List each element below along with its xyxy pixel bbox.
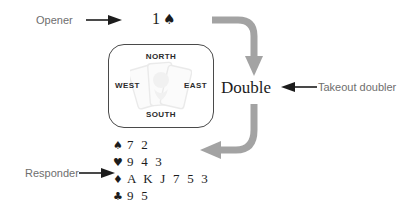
flow-arrow-opener-to-double-head: [245, 56, 263, 76]
compass-west-label: WEST: [115, 82, 140, 90]
hand-row: ♥ 9 4 3: [113, 155, 243, 172]
opening-bid: 1♠: [152, 11, 176, 27]
spade-suit-icon: ♠: [113, 140, 127, 151]
opening-bid-level: 1: [152, 10, 160, 27]
responder-hand: ♠ 7 2 ♥ 9 4 3 ♦ A K J 7 5 3 ♣ 9 5: [113, 138, 243, 206]
compass-north-label: NORTH: [109, 53, 213, 61]
club-suit-icon: ♣: [113, 191, 127, 202]
hand-row: ♦ A K J 7 5 3: [113, 172, 243, 189]
flow-arrow-opener-to-double-shaft: [212, 20, 254, 58]
hand-cards-spades: 7 2: [127, 138, 150, 151]
hand-cards-hearts: 9 4 3: [127, 155, 164, 168]
takeout-doubler-callout-arrow: [279, 81, 317, 93]
double-bid: Double: [221, 79, 271, 96]
opener-callout-arrow: [86, 14, 124, 26]
compass-south-label: SOUTH: [109, 111, 213, 119]
takeout-double-diagram: Opener 1♠ NORTH WEST EAST SOUTH Double: [0, 0, 407, 223]
heart-suit-icon: ♥: [113, 157, 127, 168]
responder-callout-arrow: [79, 167, 117, 179]
spade-suit-icon: ♠: [163, 11, 176, 27]
hand-row: ♣ 9 5: [113, 189, 243, 206]
compass-east-label: EAST: [184, 82, 207, 90]
diamond-suit-icon: ♦: [113, 174, 127, 185]
responder-label: Responder: [25, 168, 79, 179]
hand-cards-clubs: 9 5: [127, 189, 150, 202]
bridge-table: NORTH WEST EAST SOUTH: [108, 44, 214, 128]
hand-cards-diamonds: A K J 7 5 3: [127, 172, 210, 185]
takeout-doubler-label: Takeout doubler: [318, 82, 396, 93]
hand-row: ♠ 7 2: [113, 138, 243, 155]
opener-label: Opener: [36, 15, 73, 26]
